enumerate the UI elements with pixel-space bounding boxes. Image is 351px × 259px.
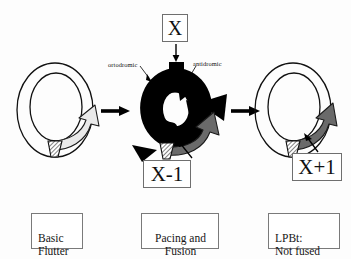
- annotation-antidromic: antidromic: [193, 60, 222, 67]
- caption-lpbt-not-fused-text: LPBt: Not fused: [275, 232, 334, 259]
- caption-lpbt-not-fused: LPBt: Not fused: [268, 213, 340, 249]
- panel-1-isthmus: [48, 141, 62, 157]
- annotation-ortodromic: ortodromic: [108, 61, 137, 68]
- caption-basic-flutter: Basic Flutter: [31, 213, 83, 249]
- caption-pacing-and-fusion-text: Pacing and Fusion: [148, 232, 213, 259]
- diagram-canvas: ortodromic antidromic X X-1 X+1 Basic Fl…: [0, 0, 351, 259]
- caption-basic-flutter-text: Basic Flutter: [38, 232, 77, 259]
- value-box-x: X: [162, 14, 188, 42]
- flow-arrow-1-2: [101, 106, 130, 116]
- caption-pacing-and-fusion: Pacing and Fusion: [141, 213, 219, 249]
- value-box-x-plus-1: X+1: [292, 153, 342, 181]
- value-box-x-minus-1: X-1: [143, 160, 191, 188]
- panel-2-isthmus: [160, 143, 174, 159]
